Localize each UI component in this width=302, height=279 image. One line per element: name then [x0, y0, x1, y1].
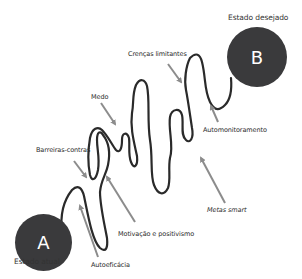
label-motivacao: Motivação e positivismo — [118, 230, 194, 238]
journey-diagram: A B Estado atual Estado desejado Crenças… — [0, 0, 302, 279]
end-state-label: Estado desejado — [228, 13, 288, 22]
arrow-metas — [201, 158, 225, 203]
label-automonitoramento: Automonitoramento — [203, 126, 267, 134]
end-state-circle: B — [227, 27, 287, 87]
label-crencas: Crenças limitantes — [128, 50, 187, 58]
arrow-crencas — [168, 64, 181, 82]
start-state-label: Estado atual — [14, 257, 60, 266]
arrow-autoeficacia — [80, 206, 98, 257]
label-barreiras: Barreiras-contras — [36, 146, 90, 154]
arrow-medo — [101, 103, 115, 124]
label-metas: Metas smart — [207, 206, 246, 214]
end-state-letter: B — [251, 47, 263, 68]
start-state-letter: A — [37, 232, 49, 253]
arrow-motivacao — [107, 177, 135, 222]
arrow-barreiras — [74, 161, 86, 177]
label-medo: Medo — [91, 93, 108, 101]
label-autoeficacia: Autoeficácia — [91, 261, 130, 269]
